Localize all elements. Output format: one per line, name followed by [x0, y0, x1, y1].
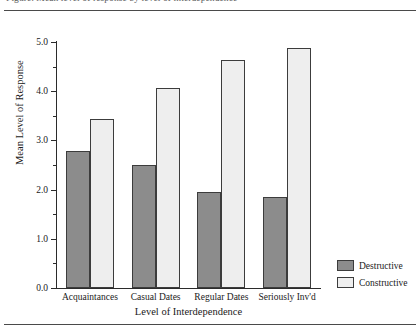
- y-tick-label: 0.0: [36, 283, 48, 293]
- y-tick-label: 5.0: [36, 37, 48, 47]
- figure-container: Figure. Mean level of response by level …: [0, 0, 420, 333]
- bar-constructive: [156, 88, 180, 288]
- y-tick-minor: [53, 116, 57, 117]
- legend-item[interactable]: Constructive: [337, 275, 419, 290]
- y-tick-major: [51, 190, 57, 191]
- y-tick-label: 2.0: [36, 185, 48, 195]
- y-tick-major: [51, 91, 57, 92]
- x-category-label: Regular Dates: [189, 292, 255, 302]
- legend-label: Constructive: [359, 278, 408, 288]
- y-tick-major: [51, 140, 57, 141]
- clipped-caption-text: Figure. Mean level of response by level …: [6, 0, 416, 9]
- y-tick-major: [51, 288, 57, 289]
- x-category-label: Casual Dates: [123, 292, 189, 302]
- bar-destructive: [263, 197, 287, 289]
- bar-constructive: [90, 119, 114, 288]
- y-axis-label: Mean Level of Response: [14, 60, 25, 165]
- figure-bottom-rule: [4, 324, 416, 325]
- chart-legend: DestructiveConstructive: [337, 258, 419, 292]
- y-tick-major: [51, 239, 57, 240]
- y-tick-major: [51, 42, 57, 43]
- legend-item[interactable]: Destructive: [337, 258, 419, 273]
- bar-group: [132, 42, 180, 288]
- bar-group: [263, 42, 311, 288]
- y-tick-minor: [53, 165, 57, 166]
- bar-group: [66, 42, 114, 288]
- plot-area: 0.01.02.03.04.05.0 AcquaintancesCasual D…: [57, 42, 320, 288]
- figure-top-rule: [4, 10, 416, 11]
- bar-destructive: [197, 192, 221, 288]
- x-axis-label: Level of Interdependence: [57, 306, 320, 317]
- legend-label: Destructive: [359, 261, 403, 271]
- x-category-label: Acquaintances: [57, 292, 123, 302]
- y-tick-label: 3.0: [36, 135, 48, 145]
- bar-constructive: [221, 60, 245, 288]
- y-tick-minor: [53, 263, 57, 264]
- x-category-label: Seriously Inv'd: [254, 292, 320, 302]
- legend-swatch-icon: [337, 260, 354, 271]
- bar-constructive: [287, 48, 311, 288]
- bar-destructive: [132, 165, 156, 288]
- y-tick-minor: [53, 214, 57, 215]
- bar-group: [197, 42, 245, 288]
- legend-swatch-icon: [337, 277, 354, 288]
- x-axis-line: [56, 288, 321, 289]
- y-tick-label: 1.0: [36, 234, 48, 244]
- bar-destructive: [66, 151, 90, 288]
- y-tick-minor: [53, 67, 57, 68]
- y-tick-label: 4.0: [36, 86, 48, 96]
